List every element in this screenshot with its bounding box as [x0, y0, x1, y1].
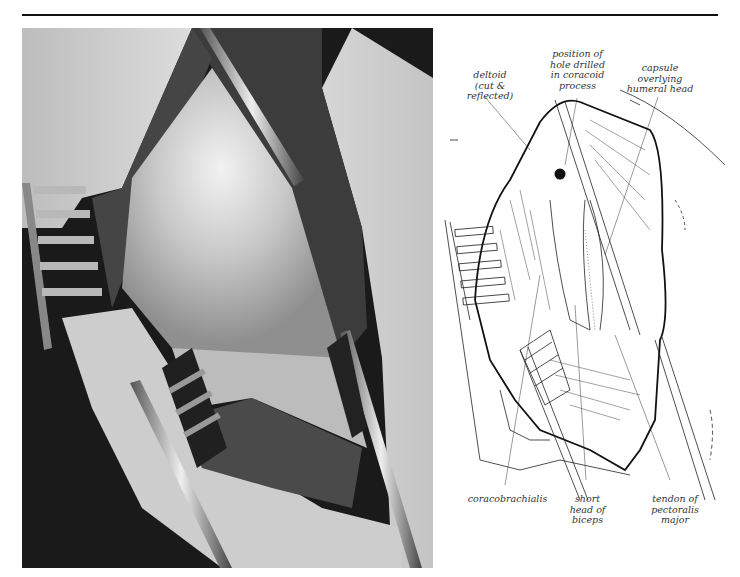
label-short-head-biceps: short head of biceps [560, 494, 615, 526]
label-capsule: capsule overlying humeral head [625, 63, 695, 95]
label-coracobrachialis: coracobrachialis [465, 494, 550, 505]
drawing-right-retractor [655, 337, 715, 500]
photograph-illustration [22, 28, 433, 568]
leader-lines [485, 97, 670, 485]
surgical-photograph [22, 28, 433, 568]
coracoid-hole-marker [555, 169, 566, 180]
label-coracoid-hole: position of hole drilled in coracoid pro… [540, 49, 615, 91]
anatomical-line-drawing: deltoid (cut & reflected) position of ho… [440, 0, 740, 577]
drawing-middle-retractor [520, 330, 588, 500]
label-pectoralis-tendon: tendon of pectoralis major [640, 494, 710, 526]
drawing-left-retractor [450, 222, 509, 320]
label-deltoid: deltoid (cut & reflected) [450, 70, 530, 102]
